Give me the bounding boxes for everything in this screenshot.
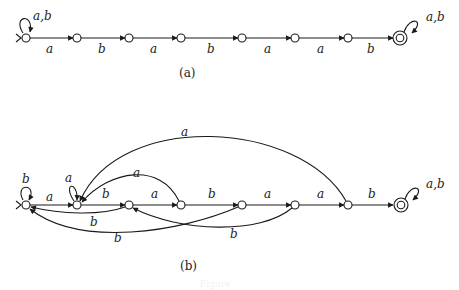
state-b-6 xyxy=(344,201,352,209)
edge-label-a-6: b xyxy=(367,42,375,56)
edge-label-b-5: a xyxy=(317,187,324,201)
edge-label-b-4: a xyxy=(264,187,271,201)
back-edge-q5-q2 xyxy=(133,208,292,227)
back-edge-label-q3-q1: a xyxy=(133,166,140,180)
start-loop-label-a: a,b xyxy=(33,9,52,23)
edge-label-b-6: b xyxy=(368,187,376,201)
state-b-2 xyxy=(125,201,133,209)
caption-b: (b) xyxy=(180,259,197,273)
state-b-1 xyxy=(73,201,81,209)
edge-label-a-1: b xyxy=(98,42,106,56)
start-loop-a xyxy=(20,19,31,33)
back-edge-q3-q1 xyxy=(82,175,179,202)
state-a-1 xyxy=(73,34,81,42)
final-loop-b xyxy=(405,188,419,200)
automaton-a: a,b a b a b a a b a,b (a) xyxy=(16,9,445,80)
final-state-b-inner xyxy=(397,201,405,209)
final-loop-a xyxy=(404,21,418,33)
state-b-4 xyxy=(238,201,246,209)
edge-label-b-0: a xyxy=(46,190,53,204)
edge-label-a-4: a xyxy=(264,42,271,56)
edge-label-a-3: b xyxy=(207,42,215,56)
state-a-6 xyxy=(344,34,352,42)
start-loop-label-b: b xyxy=(22,172,30,186)
state-a-4 xyxy=(238,34,246,42)
final-loop-label-a: a,b xyxy=(426,10,445,24)
start-marker-icon xyxy=(16,34,21,42)
state-a-0 xyxy=(22,34,30,42)
q1-loop-label-b: a xyxy=(65,171,72,185)
edge-label-a-2: a xyxy=(150,42,157,56)
back-edge-label-q4-q0: b xyxy=(114,231,122,245)
back-edge-q4-q0 xyxy=(30,207,238,232)
state-b-3 xyxy=(177,201,185,209)
edge-label-b-2: a xyxy=(151,187,158,201)
figure-caption: Figure xyxy=(200,279,230,289)
edge-label-b-1: b xyxy=(102,187,110,201)
back-edge-label-q2-q0: b xyxy=(90,215,98,229)
caption-a: (a) xyxy=(179,66,196,80)
start-marker-icon xyxy=(16,201,21,209)
state-b-5 xyxy=(291,201,299,209)
final-loop-label-b: a,b xyxy=(426,177,445,191)
q1-loop-b xyxy=(70,186,78,201)
start-loop-b xyxy=(21,187,31,200)
state-a-2 xyxy=(125,34,133,42)
automata-figure: a,b a b a b a a b a,b (a) xyxy=(0,0,459,290)
edge-label-a-5: a xyxy=(317,42,324,56)
back-edge-label-q5-q2: b xyxy=(230,227,238,241)
edge-label-a-0: a xyxy=(46,42,53,56)
back-edge-label-q6-q1: a xyxy=(181,125,188,139)
state-a-5 xyxy=(291,34,299,42)
state-b-0 xyxy=(22,201,30,209)
final-state-a-inner xyxy=(396,34,404,42)
automaton-b: b a a b a b a a b a a b b b xyxy=(16,125,445,273)
state-a-3 xyxy=(177,34,185,42)
edge-label-b-3: b xyxy=(208,187,216,201)
